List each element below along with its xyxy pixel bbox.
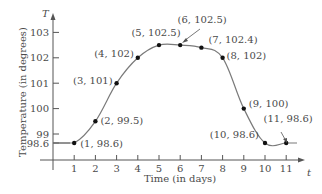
data-point bbox=[220, 56, 224, 60]
point-label: (9, 100) bbox=[249, 98, 289, 109]
x-axis-variable: t bbox=[307, 167, 312, 178]
y-axis-variable: T bbox=[42, 8, 50, 19]
point-label: (7, 102.4) bbox=[208, 34, 257, 45]
data-point bbox=[178, 43, 182, 47]
x-tick-label: 4 bbox=[135, 163, 141, 174]
x-tick-label: 1 bbox=[71, 163, 77, 174]
data-point bbox=[157, 43, 161, 47]
y-ticks: 98.699100101102103 bbox=[27, 27, 70, 149]
temperature-chart: T t 98.699100101102103 1234567891011 (1,… bbox=[0, 0, 322, 194]
y-tick-label: 99 bbox=[36, 129, 49, 140]
x-tick-label: 2 bbox=[92, 163, 98, 174]
x-tick-label: 9 bbox=[241, 163, 247, 174]
data-point bbox=[136, 56, 140, 60]
data-point bbox=[72, 141, 76, 145]
x-tick-label: 11 bbox=[280, 163, 293, 174]
x-axis-arrow-icon bbox=[298, 158, 305, 163]
point-label: (8, 102) bbox=[227, 50, 267, 61]
data-point bbox=[93, 119, 97, 123]
data-point bbox=[242, 106, 246, 110]
y-tick-label: 103 bbox=[30, 27, 49, 38]
y-tick-label: 100 bbox=[30, 103, 49, 114]
y-tick-label: 101 bbox=[30, 78, 49, 89]
x-axis-title: Time (in days) bbox=[144, 173, 216, 184]
point-label: (4, 102) bbox=[94, 48, 134, 59]
data-point bbox=[199, 45, 203, 49]
point-label: (11, 98.6) bbox=[264, 113, 313, 124]
y-axis-title: Temperature (in degrees) bbox=[17, 27, 28, 157]
x-tick-label: 3 bbox=[113, 163, 119, 174]
point-label: (3, 101) bbox=[73, 75, 113, 86]
x-tick-label: 10 bbox=[259, 163, 272, 174]
data-point bbox=[114, 81, 118, 85]
x-tick-label: 8 bbox=[219, 163, 225, 174]
x-ticks: 1234567891011 bbox=[71, 155, 293, 174]
point-label: (10, 98.6) bbox=[210, 129, 259, 140]
point-label: (5, 102.5) bbox=[131, 27, 180, 38]
y-axis-arrow-icon bbox=[51, 13, 56, 20]
y-tick-label: 102 bbox=[30, 52, 49, 63]
point-label: (2, 99.5) bbox=[100, 115, 143, 126]
point-label: (6, 102.5) bbox=[178, 14, 227, 25]
data-point bbox=[263, 141, 267, 145]
point-label: (1, 98.6) bbox=[80, 138, 123, 149]
